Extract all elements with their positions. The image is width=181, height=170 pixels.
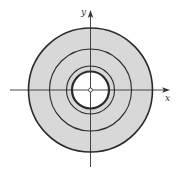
y-axis-label: y xyxy=(80,7,87,17)
x-axis-label: x xyxy=(165,93,170,103)
concentric-circles-diagram: y x xyxy=(0,0,181,170)
origin-marker xyxy=(89,88,93,92)
